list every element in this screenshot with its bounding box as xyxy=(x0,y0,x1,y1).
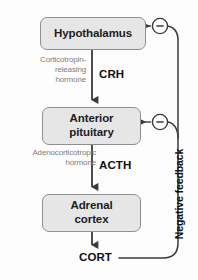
hormone-full-name-crh-line3: hormone xyxy=(55,75,86,84)
node-anterior-pituitary-label-line2: pituitary xyxy=(69,126,113,138)
node-hypothalamus-label: Hypothalamus xyxy=(54,27,132,41)
hormone-full-name-crh: Corticotropin- releasing hormone xyxy=(6,55,86,86)
node-hypothalamus: Hypothalamus xyxy=(40,17,146,50)
node-anterior-pituitary-label: Anterior pituitary xyxy=(69,112,113,139)
negative-feedback-label: Negative feedback xyxy=(173,141,185,247)
hormone-abbrev-cort: CORT xyxy=(79,251,112,263)
node-anterior-pituitary: Anterior pituitary xyxy=(42,107,141,145)
hormone-full-name-acth-line2: hormone xyxy=(65,158,96,167)
hormone-full-name-acth-line1: Adenocorticotropic xyxy=(32,148,96,157)
node-adrenal-cortex: Adrenal cortex xyxy=(42,194,141,232)
node-adrenal-cortex-label-line2: cortex xyxy=(75,213,109,225)
hormone-full-name-crh-line2: releasing xyxy=(55,65,86,74)
node-anterior-pituitary-label-line1: Anterior xyxy=(70,112,114,124)
hpa-axis-diagram: Hypothalamus Anterior pituitary Adrenal … xyxy=(0,0,198,280)
hormone-abbrev-crh: CRH xyxy=(99,68,124,80)
hormone-full-name-crh-line1: Corticotropin- xyxy=(40,55,86,64)
hormone-full-name-acth: Adenocorticotropic hormone xyxy=(2,148,96,168)
hormone-abbrev-acth: ACTH xyxy=(99,159,131,171)
node-adrenal-cortex-label: Adrenal cortex xyxy=(70,199,112,226)
feedback-branch-to-pituitary xyxy=(167,122,178,138)
node-adrenal-cortex-label-line1: Adrenal xyxy=(70,199,112,211)
